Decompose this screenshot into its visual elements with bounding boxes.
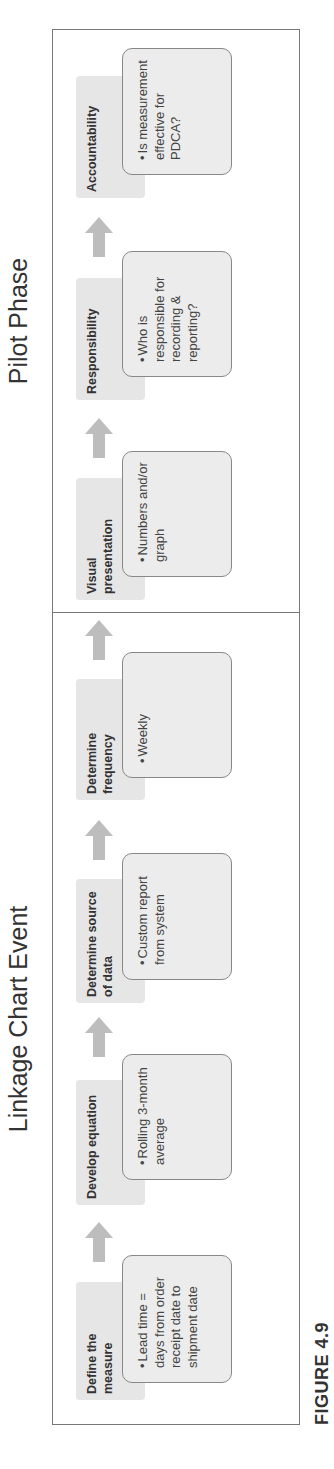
step-label-text: Define the measure: [85, 1334, 115, 1394]
step-content-frequency: •Weekly: [122, 652, 232, 778]
step-content-visual-presentation: •Numbers and/or graph: [122, 451, 232, 577]
right-arrow-icon: [84, 1222, 114, 1262]
step-label-text: Determine frequency: [85, 733, 115, 794]
right-arrow-icon: [84, 1017, 114, 1057]
step-content-accountability: •Is measurement effective for PDCA?: [122, 48, 232, 175]
step-content-text: Lead time = days from order receipt date…: [135, 1277, 200, 1368]
right-arrow-icon: [84, 620, 114, 660]
bullet-icon: •: [135, 155, 150, 160]
bullet-icon: •: [135, 557, 150, 562]
step-label-text: Develop equation: [85, 1095, 99, 1199]
bullet-icon: •: [135, 960, 150, 965]
bullet-icon: •: [135, 758, 150, 763]
section-title-linkage-chart-event: Linkage Chart Event: [4, 613, 33, 1425]
step-content-define-measure: •Lead time = days from order receipt dat…: [122, 1255, 232, 1383]
right-arrow-icon: [84, 418, 114, 458]
step-content-text: Who is responsible for recording & repor…: [135, 277, 200, 362]
step-label-text: Determine source of data: [85, 891, 115, 997]
bullet-icon: •: [135, 1363, 150, 1368]
figure-canvas: Linkage Chart Event Pilot Phase Define t…: [0, 0, 334, 1469]
step-content-text: Is measurement effective for PDCA?: [135, 60, 183, 160]
step-content-text: Weekly: [135, 714, 150, 756]
step-content-responsibility: •Who is responsible for recording & repo…: [122, 251, 232, 377]
phase-divider: [52, 612, 300, 613]
right-arrow-icon: [84, 820, 114, 860]
step-label-text: Responsibility: [85, 309, 99, 394]
step-label-text: Visual presentation: [85, 519, 115, 594]
figure-caption: FIGURE 4.9: [312, 1322, 333, 1425]
step-content-source-of-data: •Custom report from system: [122, 853, 232, 980]
step-content-text: Rolling 3-month average: [135, 1067, 167, 1165]
bullet-icon: •: [135, 1160, 150, 1165]
step-label-text: Accountability: [85, 106, 99, 192]
section-title-pilot-phase: Pilot Phase: [4, 29, 33, 613]
bullet-icon: •: [135, 357, 150, 362]
right-arrow-icon: [84, 217, 114, 257]
step-content-text: Custom report from system: [135, 876, 167, 965]
step-content-text: Numbers and/or graph: [135, 462, 167, 562]
step-content-develop-equation: •Rolling 3-month average: [122, 1054, 232, 1180]
